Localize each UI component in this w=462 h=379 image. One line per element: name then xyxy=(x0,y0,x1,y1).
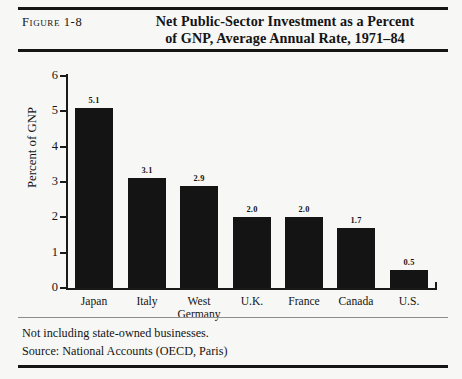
bar-value-label: 5.1 xyxy=(65,96,123,105)
bar xyxy=(180,186,218,288)
top-rule xyxy=(18,7,448,10)
figure-notes: Not including state-owned businesses. So… xyxy=(22,324,442,360)
y-tick-mark xyxy=(60,75,68,77)
bar-value-label: 2.0 xyxy=(275,205,333,214)
figure-header: Figure 1-8 Net Public-Sector Investment … xyxy=(18,13,448,47)
bar xyxy=(285,217,323,288)
bar xyxy=(337,228,375,288)
bar-value-label: 2.0 xyxy=(223,205,281,214)
x-category-label: U.S. xyxy=(374,296,444,309)
notes-divider xyxy=(18,317,448,318)
bar-chart: 0123456 Percent of GNP 5.1Japan3.1Italy2… xyxy=(0,52,462,315)
y-tick-mark xyxy=(60,181,68,183)
bar xyxy=(390,270,428,288)
bar xyxy=(233,217,271,288)
note-not-including: Not including state-owned businesses. xyxy=(22,324,442,342)
figure-title: Net Public-Sector Investment as a Percen… xyxy=(122,13,448,47)
y-tick-mark xyxy=(60,146,68,148)
figure-title-line-2: of GNP, Average Annual Rate, 1971–84 xyxy=(122,30,448,47)
y-tick-mark xyxy=(60,287,68,289)
bar xyxy=(128,178,166,288)
bar-value-label: 2.9 xyxy=(170,174,228,183)
x-axis-end-tick xyxy=(435,282,437,290)
figure-title-line-1: Net Public-Sector Investment as a Percen… xyxy=(122,13,448,30)
bar-value-label: 0.5 xyxy=(380,258,438,267)
y-tick-label: 1 xyxy=(28,246,58,258)
y-tick-mark xyxy=(60,252,68,254)
bar-value-label: 3.1 xyxy=(118,166,176,175)
y-axis-title: Percent of GNP xyxy=(25,78,40,218)
bar-value-label: 1.7 xyxy=(327,216,385,225)
bottom-rule xyxy=(18,365,448,368)
figure-number-label: Figure 1-8 xyxy=(22,15,82,30)
note-source: Source: National Accounts (OECD, Paris) xyxy=(22,342,442,360)
x-category-label-line: U.S. xyxy=(374,296,444,309)
y-tick-mark xyxy=(60,216,68,218)
y-tick-mark xyxy=(60,110,68,112)
x-axis-line xyxy=(66,288,437,290)
bar xyxy=(75,108,113,288)
x-category-label-line: Germany xyxy=(164,309,234,322)
y-tick-label: 0 xyxy=(28,281,58,293)
figure-page: Figure 1-8 Net Public-Sector Investment … xyxy=(0,0,462,379)
